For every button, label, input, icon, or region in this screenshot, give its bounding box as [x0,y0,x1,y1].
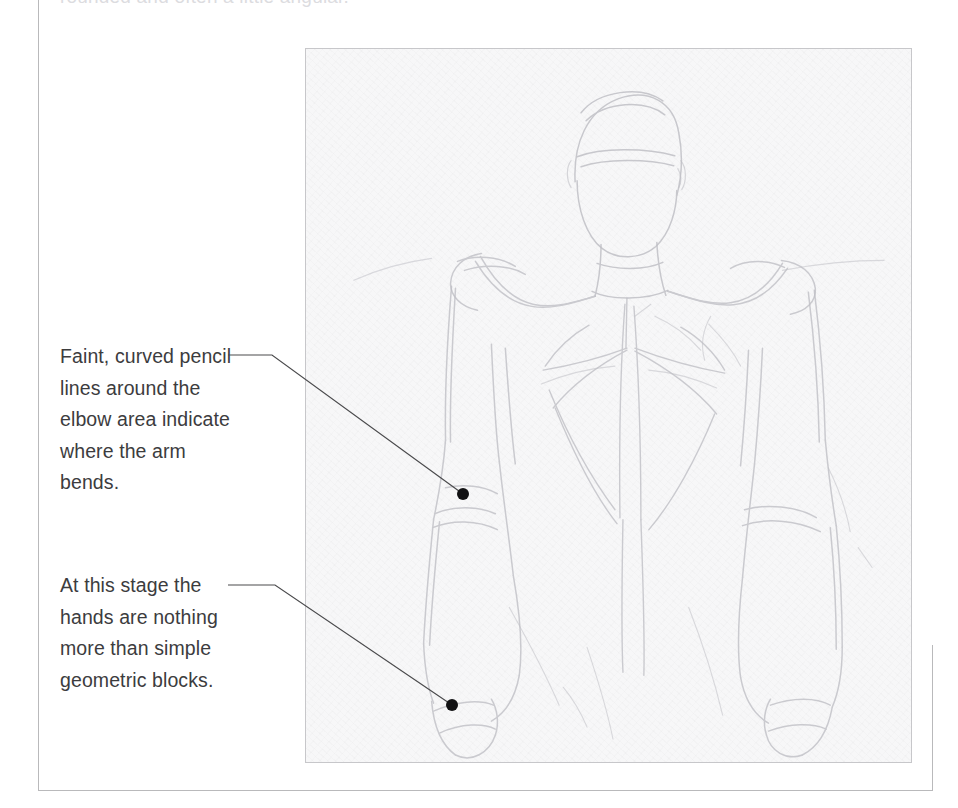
page-border-right [932,645,933,791]
caption-hands: At this stage the hands are nothing more… [60,570,240,696]
book-page: rounded and often a little angular. [0,0,958,808]
caption-elbow: Faint, curved pencil lines around the el… [60,341,240,499]
clipped-body-text: rounded and often a little angular. [60,0,349,8]
artwork-panel [305,48,912,763]
page-border-bottom [38,790,932,791]
pencil-figure-sketch [306,49,911,762]
page-border-left [38,0,39,791]
